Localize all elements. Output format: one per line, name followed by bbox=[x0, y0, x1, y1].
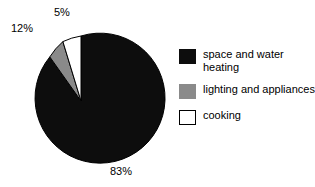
legend-item-label: space and water heating bbox=[203, 48, 315, 73]
legend-item-cooking[interactable]: cooking bbox=[179, 109, 315, 125]
legend-item-lighting-and-appliances[interactable]: lighting and appliances bbox=[179, 83, 315, 99]
black-swatch-icon bbox=[179, 49, 196, 64]
pie-label-cooking-percent: 5% bbox=[54, 6, 70, 18]
pie-label-heating-percent: 83% bbox=[110, 165, 132, 177]
white-swatch-icon bbox=[179, 110, 196, 125]
chart-legend: space and water heating lighting and app… bbox=[179, 48, 315, 135]
legend-item-space-and-water-heating[interactable]: space and water heating bbox=[179, 48, 315, 73]
pie-chart-plot-area: 5% 12% 83% bbox=[0, 0, 170, 187]
gray-swatch-icon bbox=[179, 84, 196, 99]
legend-item-label: lighting and appliances bbox=[203, 83, 315, 96]
pie-label-lighting-percent: 12% bbox=[11, 22, 33, 34]
pie-chart-figure: 5% 12% 83% space and water heating light… bbox=[0, 0, 315, 187]
legend-item-label: cooking bbox=[203, 109, 241, 122]
